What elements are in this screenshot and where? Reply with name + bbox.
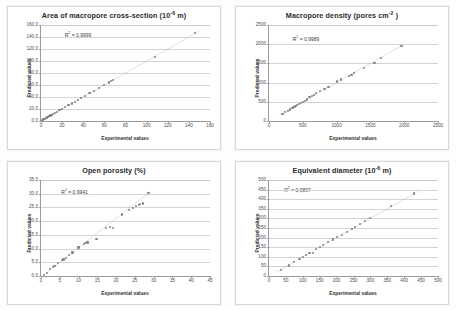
x-tick-label: 20	[60, 124, 65, 129]
x-tick-label: 50	[283, 279, 288, 284]
y-tick-label: 350	[258, 207, 266, 212]
x-tick-label: 250	[350, 279, 358, 284]
y-tick-label: 25,0	[29, 205, 38, 210]
x-tick-label: 25	[132, 279, 137, 284]
y-tick-label: 5,0	[32, 260, 38, 265]
chart-panel-macropore-density: Macropore density (pores cm-2 ) Predicte…	[228, 0, 456, 155]
y-tick-label: 100	[258, 255, 266, 260]
x-tick-label: 200	[333, 279, 341, 284]
y-tick-label: 100,0	[27, 59, 39, 64]
y-tick-label: 0,0	[32, 119, 38, 124]
x-tick-label: 400	[400, 279, 408, 284]
data-point-marker	[112, 79, 114, 81]
x-axis-title: Experimental values	[40, 137, 210, 142]
y-tick-label: 500	[258, 100, 266, 105]
chart-title-main: Macropore density (pores cm	[286, 11, 389, 20]
y-tick-label: 1000	[256, 80, 266, 85]
y-tick-label: 15,0	[29, 233, 38, 238]
x-tick-label: 80	[123, 124, 128, 129]
y-tick-label: 20,0	[29, 219, 38, 224]
data-point-marker	[346, 231, 348, 233]
series-layer	[41, 180, 210, 276]
x-axis-title: Experimental values	[268, 292, 438, 297]
data-point-marker	[298, 258, 300, 260]
data-point-marker	[49, 268, 51, 270]
y-tick-label: 400	[258, 197, 266, 202]
y-tick-label: 20,0	[29, 107, 38, 112]
x-tick-label: 500	[299, 124, 307, 129]
data-point-marker	[77, 99, 79, 101]
data-point-marker	[336, 80, 338, 82]
chart-title-main: Open porosity (%)	[82, 166, 146, 175]
y-tick-label: 500	[258, 178, 266, 183]
chart-title-main: Equivalent diameter (10	[293, 166, 376, 175]
x-tick-label: 160	[206, 124, 214, 129]
data-point-marker	[350, 74, 352, 76]
y-tick-label: 200	[258, 235, 266, 240]
x-tick-label: 300	[367, 279, 375, 284]
data-point-marker	[281, 113, 283, 115]
series-layer	[41, 25, 210, 121]
data-point-marker	[74, 101, 76, 103]
chart-title-tail: )	[394, 11, 399, 20]
x-axis-title: Experimental values	[268, 137, 438, 142]
data-point-marker	[147, 192, 149, 194]
plot-area: R2 = 0,9897 0501001502002503003504004505…	[268, 180, 438, 277]
x-tick-label: 35	[170, 279, 175, 284]
y-tick-label: 0,0	[32, 274, 38, 279]
x-tick-label: 500	[434, 279, 442, 284]
chart-card: Open porosity (%) Predicted values R2 = …	[7, 161, 221, 305]
y-tick-label: 50	[261, 264, 266, 269]
plot-area: R2 = 0,9941 0,05,010,015,020,025,030,035…	[40, 180, 210, 277]
chart-panel-equivalent-diameter: Equivalent diameter (10-6 m) Predicted v…	[228, 155, 456, 310]
x-tick-label: 0	[40, 124, 43, 129]
y-tick-label: 150	[258, 245, 266, 250]
data-point-marker	[71, 102, 73, 104]
data-point-marker	[306, 98, 308, 100]
data-point-marker	[142, 202, 144, 204]
x-tick-label: 40	[81, 124, 86, 129]
data-point-marker	[327, 86, 329, 88]
chart-title: Open porosity (%)	[8, 166, 220, 175]
x-tick-label: 20	[114, 279, 119, 284]
chart-grid: Area of macropore cross-section (10-6 m)…	[0, 0, 456, 310]
x-tick-label: 2500	[433, 124, 443, 129]
x-tick-label: 100	[143, 124, 151, 129]
data-point-marker	[323, 88, 325, 90]
plot-area: R2 = 0,9989 0500100015002000250005001000…	[268, 25, 438, 122]
x-tick-label: 450	[417, 279, 425, 284]
x-tick-label: 350	[383, 279, 391, 284]
x-tick-label: 140	[185, 124, 193, 129]
x-tick-label: 1000	[331, 124, 341, 129]
x-tick-label: 1500	[365, 124, 375, 129]
y-tick-label: 80,0	[29, 71, 38, 76]
chart-panel-area-of-macropore-cross-section: Area of macropore cross-section (10-6 m)…	[0, 0, 228, 155]
y-tick-label: 30,0	[29, 191, 38, 196]
x-tick-label: 15	[95, 279, 100, 284]
y-tick-label: 450	[258, 187, 266, 192]
x-tick-label: 0	[40, 279, 43, 284]
data-point-marker	[302, 256, 304, 258]
y-tick-label: 140,0	[27, 35, 39, 40]
y-tick-label: 0	[263, 274, 266, 279]
data-point-marker	[71, 251, 73, 253]
data-point-marker	[313, 94, 315, 96]
x-tick-label: 5	[58, 279, 61, 284]
y-tick-label: 40,0	[29, 95, 38, 100]
x-tick-label: 40	[189, 279, 194, 284]
x-tick-label: 150	[316, 279, 324, 284]
y-axis-title: Predicted values	[28, 59, 33, 98]
chart-title-main: Area of macropore cross-section (10	[42, 11, 171, 20]
chart-panel-open-porosity: Open porosity (%) Predicted values R2 = …	[0, 155, 228, 310]
y-tick-label: 1500	[256, 61, 266, 66]
data-point-marker	[46, 272, 48, 274]
y-tick-label: 250	[258, 226, 266, 231]
figure-sheet: Area of macropore cross-section (10-6 m)…	[0, 0, 456, 310]
x-tick-label: 30	[151, 279, 156, 284]
x-tick-label: 0	[268, 124, 271, 129]
data-point-marker	[400, 45, 402, 47]
chart-card: Macropore density (pores cm-2 ) Predicte…	[235, 6, 449, 150]
chart-title: Equivalent diameter (10-6 m)	[236, 166, 448, 175]
data-point-marker	[93, 90, 95, 92]
chart-card: Area of macropore cross-section (10-6 m)…	[7, 6, 221, 150]
